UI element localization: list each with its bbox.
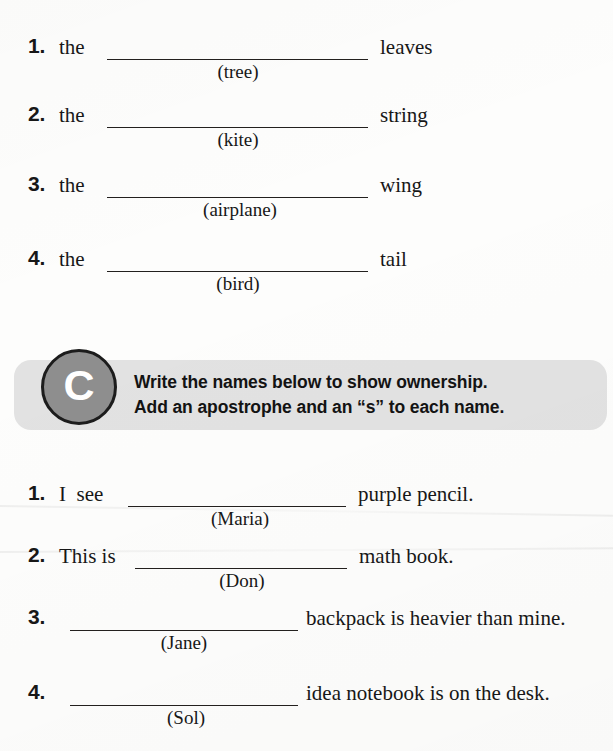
- item-stem-text: This is: [59, 544, 116, 569]
- exercise-row: 2. This is (Don) math book.: [0, 543, 613, 597]
- exercise-row: 4. the (bird) tail: [0, 246, 613, 300]
- answer-blank[interactable]: [107, 271, 368, 272]
- answer-blank[interactable]: [107, 127, 368, 128]
- answer-blank[interactable]: [135, 568, 347, 569]
- item-number: 2.: [28, 543, 45, 567]
- answer-blank[interactable]: [128, 506, 346, 507]
- answer-blank[interactable]: [107, 197, 368, 198]
- item-hint-word: (Don): [172, 570, 312, 592]
- item-number: 4.: [28, 246, 45, 270]
- item-number: 1.: [28, 481, 45, 505]
- exercise-row: 4. (Sol) idea notebook is on the desk.: [0, 680, 613, 734]
- item-tail-text: wing: [380, 173, 422, 198]
- answer-blank[interactable]: [107, 59, 368, 60]
- exercise-row: 3. (Jane) backpack is heavier than mine.: [0, 605, 613, 659]
- item-stem-text: I see: [59, 482, 103, 507]
- item-number: 3.: [28, 605, 45, 629]
- item-number: 4.: [28, 680, 45, 704]
- item-tail-text: purple pencil.: [358, 482, 473, 507]
- item-tail-text: backpack is heavier than mine.: [306, 606, 565, 631]
- item-hint-word: (kite): [168, 129, 308, 151]
- section-letter: C: [44, 352, 114, 422]
- item-hint-word: (Maria): [170, 508, 310, 530]
- answer-blank[interactable]: [70, 630, 298, 631]
- item-stem-text: the: [59, 35, 85, 60]
- item-hint-word: (bird): [168, 273, 308, 295]
- item-stem-text: the: [59, 173, 85, 198]
- exercise-row: 3. the (airplane) wing: [0, 172, 613, 226]
- item-tail-text: tail: [380, 247, 407, 272]
- exercise-row: 1. I see (Maria) purple pencil.: [0, 481, 613, 535]
- item-stem-text: the: [59, 247, 85, 272]
- instruction-line-2: Add an apostrophe and an “s” to each nam…: [134, 395, 594, 420]
- item-hint-word: (airplane): [160, 199, 320, 221]
- section-letter-badge: C: [41, 349, 117, 425]
- item-number: 3.: [28, 172, 45, 196]
- answer-blank[interactable]: [70, 705, 298, 706]
- exercise-row: 1. the (tree) leaves: [0, 34, 613, 88]
- item-hint-word: (Sol): [116, 707, 256, 729]
- item-number: 2.: [28, 102, 45, 126]
- item-tail-text: leaves: [380, 35, 432, 60]
- item-stem-text: the: [59, 103, 85, 128]
- item-hint-word: (Jane): [114, 632, 254, 654]
- item-hint-word: (tree): [168, 61, 308, 83]
- section-c-instructions: Write the names below to show ownership.…: [134, 370, 594, 420]
- worksheet-page: 1. the (tree) leaves 2. the (kite) strin…: [0, 0, 613, 751]
- exercise-row: 2. the (kite) string: [0, 102, 613, 156]
- item-number: 1.: [28, 34, 45, 58]
- item-tail-text: math book.: [359, 544, 454, 569]
- instruction-line-1: Write the names below to show ownership.: [134, 370, 594, 395]
- item-tail-text: idea notebook is on the desk.: [306, 681, 550, 706]
- item-tail-text: string: [380, 103, 428, 128]
